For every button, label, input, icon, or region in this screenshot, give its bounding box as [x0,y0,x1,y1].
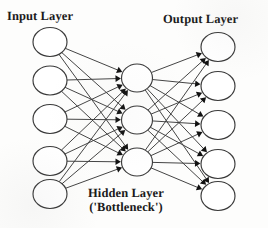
edge-1to2-2-0 [145,63,206,150]
node-hidden-layer-1 [122,64,153,92]
node-input-layer-3 [33,105,67,134]
hidden-layer-label-line1: Hidden Layer [88,186,164,200]
edge-1to2-0-3 [147,89,204,150]
edge-1to2-1-0 [148,61,203,110]
edge-0to1-0-0 [65,48,118,70]
hidden-layer-label: Hidden Layer ('Bottleneck') [88,186,164,214]
arrowhead-1to2-0-1 [195,80,201,87]
arrowhead-0to1-1-0 [115,75,121,82]
edge-1to2-1-3 [150,127,199,154]
edge-0to1-3-1 [65,129,119,154]
neural-network-diagram: Input Layer Output Layer Hidden Layer ('… [0,0,268,228]
node-output-layer-4 [201,150,235,179]
node-input-layer-5 [33,180,67,209]
arrowhead-1to2-1-2 [195,120,201,127]
node-input-layer-1 [33,28,67,57]
edge-1to2-1-2 [152,121,196,124]
edge-0to1-4-0 [59,93,125,181]
arrowhead-0to1-3-2 [115,158,120,165]
node-output-layer-2 [201,72,235,101]
node-output-layer-5 [201,182,235,211]
edge-0to1-2-1 [67,119,117,120]
node-input-layer-2 [33,66,67,95]
output-layer-label: Output Layer [163,12,238,26]
edge-1to2-2-2 [151,134,199,156]
node-output-layer-1 [201,33,235,62]
node-output-layer-3 [201,111,235,140]
node-hidden-layer-2 [122,106,153,134]
hidden-layer-label-line2: ('Bottleneck') [88,200,164,214]
node-input-layer-4 [33,147,67,176]
edge-1to2-0-1 [152,80,196,84]
input-layer-label: Input Layer [7,9,73,23]
arrowhead-0to1-2-1 [115,116,120,123]
edge-1to2-0-0 [151,55,198,73]
node-hidden-layer-3 [122,148,153,176]
edge-1to2-1-4 [148,130,203,182]
edge-1to2-2-3 [152,162,196,163]
